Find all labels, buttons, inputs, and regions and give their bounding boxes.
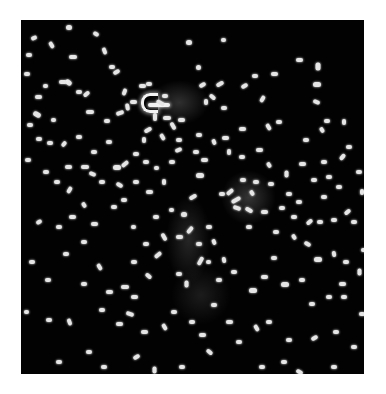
image-canvas [0,0,386,394]
bacterium [240,178,246,182]
bacterium [56,360,62,364]
bacterium [256,148,263,152]
bacterium [265,123,272,131]
bacterium [106,290,113,294]
bacterium [132,354,140,361]
bacterium [46,318,52,322]
bacterium [154,166,159,170]
bacterium [231,196,242,204]
bacterium [121,198,127,202]
bacterium [24,310,29,314]
bacterium [169,208,174,212]
bacterium [56,225,62,229]
bacterium [131,260,137,264]
bacterium [76,90,82,94]
bacterium [295,369,303,374]
bacterium [361,248,364,252]
bacterium [186,40,192,45]
bacterium [253,324,260,332]
bacterium [336,185,342,189]
bacterium [206,225,212,229]
bacterium [131,295,138,299]
bacterium [116,110,125,116]
bacterium [211,138,217,145]
fluorescence-micrograph [21,20,364,374]
bacterium [291,215,297,219]
bacterium [48,41,55,49]
bacterium [145,272,153,280]
bacterium [142,137,146,143]
bacterium [253,180,259,184]
bacterium [81,165,89,169]
bacterium [61,140,68,147]
bacterium [285,171,289,178]
bacterium [321,195,327,199]
bacterium [104,119,110,123]
bacterium [249,288,257,293]
bacterium [112,69,120,76]
bacterium [281,282,289,287]
bacterium [126,311,135,317]
bacterium [346,145,352,149]
bacterium [276,120,282,124]
bacterium [266,320,272,324]
bacterium [198,82,206,89]
bacterium [249,189,255,196]
bacterium [311,178,317,182]
bacterium [221,106,227,110]
bacterium [96,263,103,271]
bacterium [99,180,105,184]
bacterium [317,220,323,224]
bacterium [239,127,246,131]
bacterium [211,238,217,245]
bacterium [233,205,242,211]
bacterium [197,256,205,266]
bacterium [331,218,337,222]
bacterium [296,200,302,204]
bacterium [271,256,277,260]
bacterium [159,133,166,141]
bacterium [273,230,279,234]
bacterium [91,150,97,154]
bacterium [239,155,245,159]
bacterium [83,90,91,98]
bacterium [59,80,67,84]
bacterium [306,218,314,226]
bacterium [111,205,117,209]
bacterium [178,118,185,122]
bacterium [193,150,199,154]
bacterium [359,312,364,316]
bacterium [313,99,321,105]
bacterium [35,219,42,225]
bacterium [259,365,265,369]
bacterium [154,251,163,259]
bacterium [153,367,157,374]
bacterium [358,269,362,276]
bacterium [86,350,92,354]
bacterium [81,240,87,244]
bacterium [299,278,305,282]
bacterium [116,322,123,326]
bacterium [43,170,49,174]
bacterium [146,82,152,86]
bacterium [130,100,137,104]
bacterium [227,149,231,155]
bacterium [106,140,112,144]
bacterium [286,338,292,342]
bacterium [303,138,309,142]
bacterium [179,365,185,369]
bacterium [139,84,146,88]
bacterium [181,212,187,217]
bacterium [331,365,337,369]
bacterium [319,126,325,133]
bacterium [169,122,176,131]
bacterium [35,95,42,99]
bacterium [316,63,321,71]
bacterium [333,330,339,334]
bacterium [344,208,352,216]
bacterium [351,345,357,349]
bacterium [176,235,183,239]
bacterium [296,58,303,62]
bacterium [196,173,204,178]
bacterium [121,88,127,96]
